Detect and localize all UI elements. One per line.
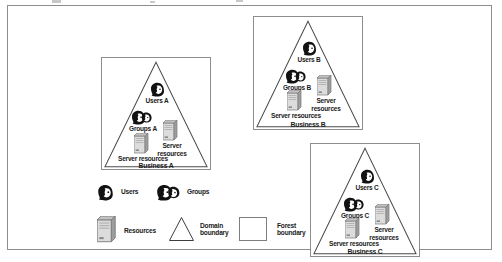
user-head-icon <box>96 184 115 201</box>
legend-label-domain-boundary: Domain boundary <box>200 222 240 237</box>
legend-label-groups: Groups <box>187 188 209 195</box>
square-outline-icon <box>239 217 267 241</box>
group-heads-icon <box>131 110 153 125</box>
group-heads-icon <box>156 184 181 201</box>
group-heads-icon <box>285 69 307 84</box>
domain-title-business-a: Business A <box>102 162 210 169</box>
groups-label-a: Groups A <box>117 125 169 133</box>
users-label-b: Users B <box>284 56 334 64</box>
server-tower-icon <box>134 133 150 154</box>
legend-label-users: Users <box>121 188 138 195</box>
user-head-icon <box>359 169 376 184</box>
legend-label-resources: Resources <box>124 227 156 234</box>
legend-label-forest-boundary: Forest boundary <box>277 222 317 237</box>
server-tower-icon <box>287 90 303 111</box>
domain-box-business-a[interactable]: Users A Groups A Server r <box>101 57 211 170</box>
server-tower-icon <box>163 120 179 141</box>
triangle-outline-icon <box>168 216 195 246</box>
user-head-icon <box>301 41 318 56</box>
server-resources-label-b-right: Server resources <box>308 97 344 112</box>
domain-title-business-b: Business B <box>254 121 362 128</box>
legend: Users Groups <box>96 184 396 252</box>
server-tower-icon <box>317 75 333 96</box>
server-tower-icon <box>97 216 118 243</box>
users-label-a: Users A <box>132 97 182 105</box>
domain-box-business-b[interactable]: Users B Groups B Server r <box>253 16 363 130</box>
server-resources-label-b-left: Server resources <box>261 112 331 120</box>
user-head-icon <box>149 82 166 97</box>
forest-boundary-rectangle: Users A Groups A Server r <box>7 5 492 250</box>
